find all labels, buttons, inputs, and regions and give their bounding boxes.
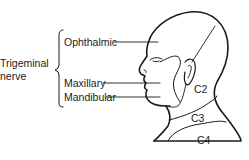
maxillary-label: Maxillary xyxy=(64,78,105,89)
neck-front-outline xyxy=(154,106,170,141)
ophthalmic-c2-boundary xyxy=(192,26,215,62)
trigeminal-label-line1: Trigeminal xyxy=(0,58,49,69)
ear-outline xyxy=(184,59,195,85)
c3-label: C3 xyxy=(191,113,204,124)
c4-label: C4 xyxy=(197,135,210,146)
head-neck-illustration xyxy=(0,0,249,160)
ophthalmic-label: Ophthalmic xyxy=(64,37,117,48)
trigeminal-label-line2: nerve xyxy=(0,71,26,82)
trigeminal-dermatome-diagram: Trigeminal nerve Ophthalmic Maxillary Ma… xyxy=(0,0,249,160)
cheek-contour xyxy=(160,56,180,102)
face-profile-outline xyxy=(139,38,170,106)
ear-inner xyxy=(188,65,191,78)
nostril-detail xyxy=(144,70,146,73)
mandibular-label: Mandibular xyxy=(64,92,116,103)
trigeminal-bracket xyxy=(55,30,63,107)
eye-detail xyxy=(150,58,162,62)
c2-label: C2 xyxy=(194,84,207,95)
